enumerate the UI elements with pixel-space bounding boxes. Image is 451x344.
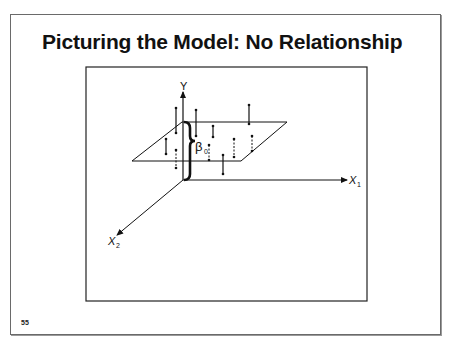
x2-axis — [117, 180, 183, 235]
regression-plane — [132, 122, 287, 161]
intercept-brace — [184, 122, 195, 180]
x2-axis-subscript: 2 — [116, 242, 120, 249]
intercept-label: β — [195, 139, 202, 154]
x1-axis-label: X — [348, 174, 357, 186]
y-axis-label: Y — [180, 80, 188, 92]
regression-diagram: Y X 1 X 2 β 0 — [0, 0, 451, 344]
slide-number: 55 — [21, 319, 29, 326]
residuals — [166, 105, 252, 174]
intercept-subscript: 0 — [204, 148, 208, 155]
x2-axis-label: X — [107, 235, 116, 247]
diagram-frame — [86, 67, 367, 301]
x1-axis-subscript: 1 — [357, 181, 361, 188]
